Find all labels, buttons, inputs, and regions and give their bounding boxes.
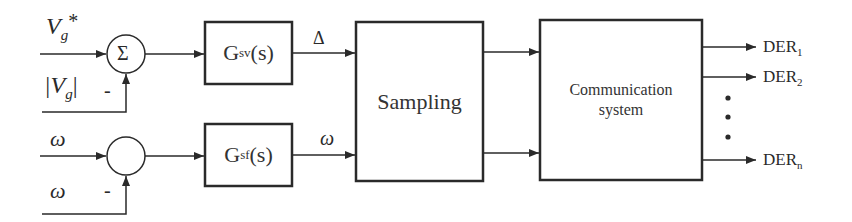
output-der-1: DER1 bbox=[763, 38, 803, 58]
sampling-label: Sampling bbox=[356, 22, 483, 181]
vg-ref-label: Vg* bbox=[46, 14, 78, 43]
gsf-label: Gsf(s) bbox=[205, 124, 292, 186]
omega-out-label: ω bbox=[320, 128, 334, 148]
omega-ref-label: ω bbox=[50, 128, 66, 150]
minus-sign-top: - bbox=[104, 80, 111, 100]
communication-system-label: Communication system bbox=[540, 20, 702, 180]
ellipsis-dots bbox=[725, 95, 730, 139]
omega-measured-label: ω bbox=[50, 180, 66, 202]
sigma-symbol: Σ bbox=[117, 43, 129, 63]
minus-sign-bottom: - bbox=[104, 180, 111, 200]
output-der-2: DER2 bbox=[763, 68, 803, 88]
gsv-label: Gsv(s) bbox=[205, 22, 292, 84]
output-der-n: DERn bbox=[763, 151, 803, 171]
summing-junction-bottom bbox=[107, 137, 145, 175]
vg-measured-label: |Vg| bbox=[44, 73, 78, 102]
delta-label: Δ bbox=[313, 29, 325, 47]
